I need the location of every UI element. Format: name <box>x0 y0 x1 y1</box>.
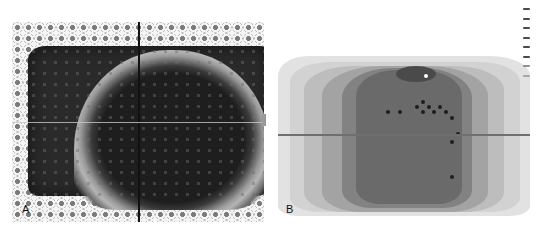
horizontal-reference-line <box>278 134 530 136</box>
panel-a-pressure-map <box>12 22 264 222</box>
panel-a-side-marker <box>262 114 266 126</box>
scatter-point <box>450 175 454 179</box>
scatter-point <box>444 110 448 114</box>
scatter-point <box>438 105 442 109</box>
scatter-point <box>421 110 425 114</box>
contour-level-6 <box>356 70 462 204</box>
scatter-point <box>450 140 454 144</box>
horizontal-crosshair <box>12 122 264 123</box>
scatter-point <box>427 105 431 109</box>
scatter-point <box>415 105 419 109</box>
scatter-point <box>421 100 425 104</box>
peak-region <box>396 66 436 82</box>
panel-label-b: B <box>286 203 293 215</box>
color-scale-legend <box>523 8 530 84</box>
panel-label-a: A <box>22 203 29 215</box>
scatter-point <box>450 116 454 120</box>
scatter-point <box>386 110 390 114</box>
scatter-point <box>398 110 402 114</box>
peak-marker <box>424 74 428 78</box>
panel-b-contour-map <box>278 52 530 218</box>
scatter-point <box>432 110 436 114</box>
